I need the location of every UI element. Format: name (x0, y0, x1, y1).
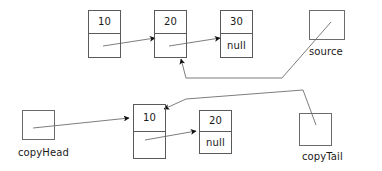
source-node-3[interactable]: 30 null (220, 10, 253, 58)
source-node-1-value: 10 (89, 11, 120, 34)
source-node-2[interactable]: 20 (154, 10, 187, 58)
copy-node-1-next (134, 132, 165, 159)
source-node-2-value: 20 (155, 11, 186, 34)
source-node-1[interactable]: 10 (88, 10, 121, 58)
copyhead-pointer-box[interactable] (22, 110, 55, 140)
copy-node-2-next: null (200, 132, 231, 153)
copyhead-pointer-label: copyHead (18, 148, 69, 158)
source-node-2-next (155, 34, 186, 57)
copy-node-2[interactable]: 20 null (199, 110, 232, 154)
edge-copytail-to-copy1 (164, 90, 316, 125)
source-node-3-next: null (221, 34, 252, 57)
copy-node-1-value: 10 (134, 105, 165, 132)
diagram-canvas: 10 20 30 null source copyHead 10 20 null… (0, 0, 382, 171)
copytail-pointer-label: copyTail (302, 152, 343, 162)
source-node-3-value: 30 (221, 11, 252, 34)
source-node-1-next (89, 34, 120, 57)
source-pointer-box[interactable] (309, 10, 345, 40)
copy-node-1[interactable]: 10 (133, 104, 166, 159)
source-pointer-label: source (309, 47, 343, 57)
copy-node-2-value: 20 (200, 111, 231, 132)
copytail-pointer-box[interactable] (299, 113, 332, 146)
